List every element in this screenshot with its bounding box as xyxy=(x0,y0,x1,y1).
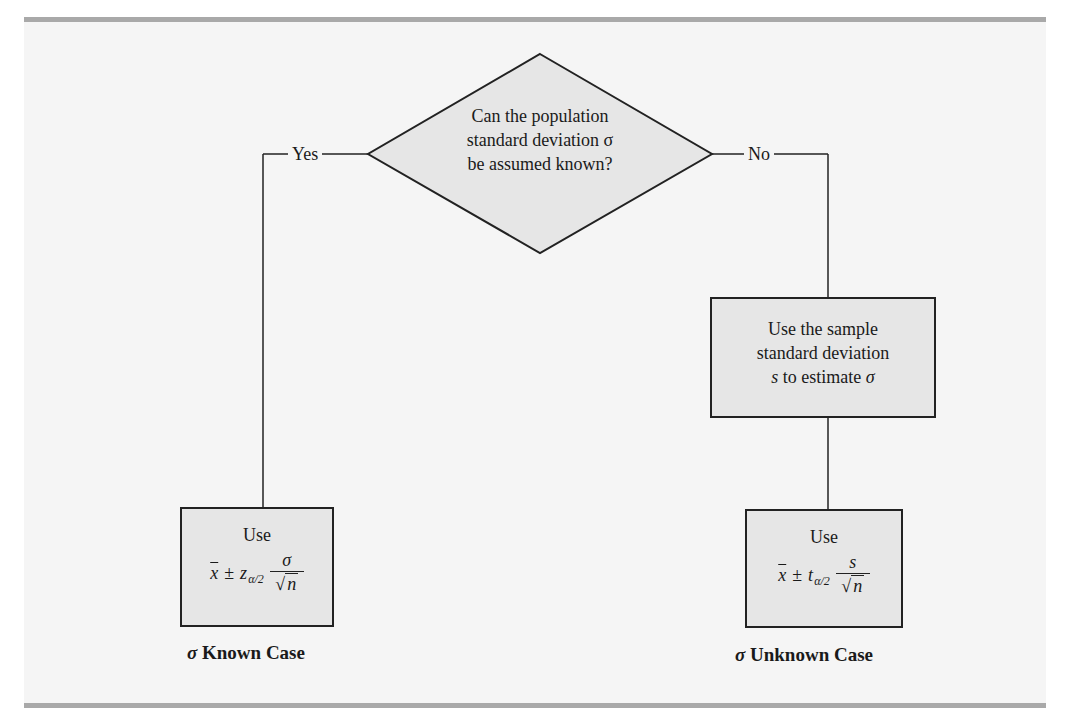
fraction-numerator: σ xyxy=(270,549,304,572)
unknown-case-box: Use x ± tα/2 s √n xyxy=(745,509,903,628)
known-case-box: Use x ± zα/2 σ √n xyxy=(180,507,334,627)
standard-error-fraction: σ √n xyxy=(270,549,304,596)
unknown-case-text: Unknown Case xyxy=(745,644,873,665)
alpha-half-subscript: α/2 xyxy=(814,569,830,593)
plus-minus-symbol: ± xyxy=(224,561,234,585)
sigma-symbol: σ xyxy=(187,642,197,663)
decision-line-2: standard deviation σ xyxy=(440,128,640,152)
t-interval-formula: x ± tα/2 s √n xyxy=(778,551,870,598)
estimate-line-3: s to estimate σ xyxy=(712,365,934,389)
sample-mean-symbol: x xyxy=(778,563,786,587)
yes-label: Yes xyxy=(288,144,322,164)
decision-line-1: Can the population xyxy=(440,104,640,128)
no-label: No xyxy=(744,144,774,164)
z-interval-formula: x ± zα/2 σ √n xyxy=(210,549,304,596)
known-use-label: Use xyxy=(182,523,332,547)
sigma-symbol: σ xyxy=(866,367,875,387)
decision-line-3: be assumed known? xyxy=(440,152,640,176)
square-root-icon: √ xyxy=(275,574,285,594)
unknown-use-label: Use xyxy=(747,525,901,549)
decision-question: Can the population standard deviation σ … xyxy=(440,104,640,176)
fraction-numerator: s xyxy=(836,551,870,574)
square-root-icon: √ xyxy=(841,576,851,596)
sample-mean-symbol: x xyxy=(210,561,218,585)
sigma-symbol: σ xyxy=(735,644,745,665)
radicand: n xyxy=(851,575,864,596)
z-symbol: z xyxy=(240,561,247,585)
standard-error-fraction: s √n xyxy=(836,551,870,598)
radicand: n xyxy=(285,573,298,594)
known-case-text: Known Case xyxy=(197,642,305,663)
plus-minus-symbol: ± xyxy=(792,563,802,587)
estimate-line-1: Use the sample xyxy=(712,317,934,341)
alpha-half-subscript: α/2 xyxy=(248,567,264,591)
fraction-denominator: √n xyxy=(841,574,864,598)
t-symbol: t xyxy=(808,563,813,587)
estimate-line-3-text: to estimate xyxy=(778,367,865,387)
estimate-line-2: standard deviation xyxy=(712,341,934,365)
known-case-caption: σ Known Case xyxy=(187,642,305,664)
fraction-denominator: √n xyxy=(275,572,298,596)
unknown-case-caption: σ Unknown Case xyxy=(735,644,873,666)
estimate-sigma-box: Use the sample standard deviation s to e… xyxy=(710,297,936,418)
